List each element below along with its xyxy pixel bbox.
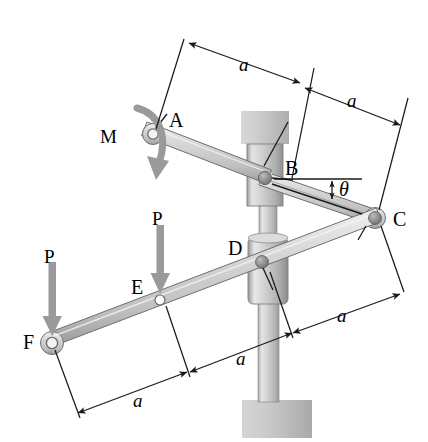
force-label-P-at-F: P xyxy=(44,247,55,266)
ground-base xyxy=(242,400,312,438)
lower-bar-body xyxy=(51,208,382,346)
dimension-label-a-top-right: a xyxy=(347,91,357,110)
post-top-cap xyxy=(241,111,289,144)
pin-F xyxy=(46,337,57,348)
ext-line-E-bottom xyxy=(166,306,190,377)
ext-line-F-bottom xyxy=(55,350,80,418)
pin-B xyxy=(258,171,271,184)
dimension-label-a-bottom-right: a xyxy=(337,306,347,325)
dimension-label-a-top-left: a xyxy=(239,55,249,74)
point-label-C: C xyxy=(393,209,406,229)
point-label-A: A xyxy=(169,110,183,130)
upper-bar-crease-BC xyxy=(268,180,372,216)
pin-D xyxy=(256,256,269,269)
point-label-D: D xyxy=(228,238,242,258)
pin-A xyxy=(148,129,158,139)
angle-label-theta: θ xyxy=(339,179,349,199)
dimension-label-a-bottom-mid: a xyxy=(236,349,246,368)
force-P-at-F-shaft xyxy=(49,262,57,318)
force-label-P-at-E: P xyxy=(152,209,163,228)
dim-line-a-bottom-right xyxy=(293,294,400,333)
force-P-at-F xyxy=(43,262,63,336)
mechanism-figure: A B C D E F M P P θ a a a a a xyxy=(0,0,428,442)
lower-bar-highlight xyxy=(54,213,377,336)
vertical-post-assembly xyxy=(241,111,312,438)
mechanism-drawing xyxy=(0,0,428,442)
force-P-at-E xyxy=(151,225,171,294)
dimension-label-a-bottom-left: a xyxy=(133,391,143,410)
ext-line-C-bottom xyxy=(381,226,404,292)
point-label-B: B xyxy=(285,158,298,178)
lower-collar-top-rim xyxy=(248,233,288,243)
point-label-F: F xyxy=(23,332,34,352)
force-P-at-E-shaft xyxy=(157,225,165,275)
pin-E xyxy=(155,295,165,305)
point-label-E: E xyxy=(131,277,143,297)
moment-label-M: M xyxy=(100,127,117,146)
lower-bar xyxy=(41,208,382,355)
ext-line-C-top xyxy=(379,98,408,210)
pin-C xyxy=(369,212,382,225)
moment-arrowhead xyxy=(147,156,169,180)
